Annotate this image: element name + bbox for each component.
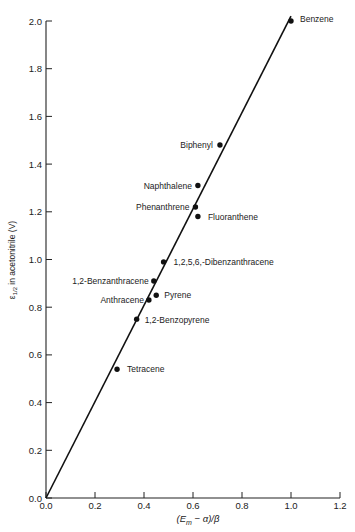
point-marker <box>195 183 200 188</box>
y-tick-label: 1.8 <box>29 63 42 74</box>
data-point: Tetracene <box>114 364 164 374</box>
data-point: Naphthalene <box>144 181 201 191</box>
data-point: Phenanthrene <box>136 202 198 212</box>
y-tick-label: 0.8 <box>29 302 42 313</box>
y-axis-label: ε1/2 in acetonitrile (V) <box>7 221 18 299</box>
point-label: 1,2,5,6,-Dibenzanthracene <box>174 257 274 267</box>
point-marker <box>288 18 293 23</box>
x-tick-label: 0.4 <box>137 500 150 511</box>
point-label: Pyrene <box>164 290 191 300</box>
point-label: Naphthalene <box>144 181 192 191</box>
x-tick-label: 0.8 <box>235 500 248 511</box>
x-tick-label: 1.0 <box>284 500 297 511</box>
x-tick-label: 0.0 <box>39 500 52 511</box>
x-axis-label: (Em − α)/β <box>177 513 220 526</box>
point-marker <box>195 214 200 219</box>
data-point: 1,2-Benzanthracene <box>72 276 156 286</box>
point-label: Fluoranthene <box>208 212 258 222</box>
point-label: Benzene <box>300 14 334 24</box>
data-point: 1,2-Benzopyrene <box>134 315 210 325</box>
data-point: 1,2,5,6,-Dibenzanthracene <box>161 257 274 267</box>
x-tick-label: 0.6 <box>186 500 199 511</box>
point-label: 1,2-Benzopyrene <box>145 315 210 325</box>
data-point: Pyrene <box>154 290 192 300</box>
y-tick-label: 1.4 <box>29 159 42 170</box>
y-tick-label: 1.6 <box>29 111 42 122</box>
y-tick-label: 0.2 <box>29 445 42 456</box>
point-label: Phenanthrene <box>136 202 190 212</box>
point-marker <box>114 367 119 372</box>
data-point: Fluoranthene <box>195 212 258 222</box>
point-marker <box>217 142 222 147</box>
point-label: Biphenyl <box>180 140 213 150</box>
point-marker <box>193 204 198 209</box>
data-point: Biphenyl <box>180 140 222 150</box>
y-tick-label: 0.6 <box>29 349 42 360</box>
scatter-chart: 0.00.20.40.60.81.01.21.41.61.82.00.00.20… <box>0 0 355 532</box>
y-tick-label: 1.2 <box>29 206 42 217</box>
data-point: Anthracene <box>100 295 151 305</box>
point-marker <box>146 297 151 302</box>
point-marker <box>161 259 166 264</box>
point-label: Anthracene <box>100 295 144 305</box>
x-tick-label: 0.2 <box>88 500 101 511</box>
data-points: BenzeneBiphenylNaphthalenePhenanthreneFl… <box>72 14 334 374</box>
y-tick-label: 1.0 <box>29 254 42 265</box>
point-label: 1,2-Benzanthracene <box>72 276 149 286</box>
y-tick-label: 0.4 <box>29 397 42 408</box>
point-marker <box>154 293 159 298</box>
point-label: Tetracene <box>127 364 165 374</box>
data-point: Benzene <box>288 14 334 24</box>
y-tick-label: 2.0 <box>29 16 42 27</box>
x-tick-label: 1.2 <box>333 500 346 511</box>
point-marker <box>134 316 139 321</box>
point-marker <box>151 278 156 283</box>
